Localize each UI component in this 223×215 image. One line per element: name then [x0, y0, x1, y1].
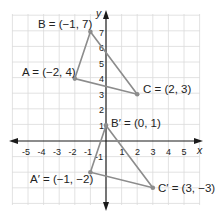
- x-axis-label: x: [196, 144, 203, 156]
- coordinate-plane: y x -5 -4 -3 -2 -1 1 2 3 4 5 1 2 3 4 5 6…: [0, 0, 223, 215]
- y-axis-label: y: [95, 7, 102, 19]
- x-tick: -3: [53, 147, 61, 157]
- x-tick: -1: [84, 147, 92, 157]
- y-tick: 1: [99, 121, 104, 131]
- point-c-prime: [151, 186, 156, 191]
- x-tick: -4: [38, 147, 46, 157]
- y-axis-up-arrow-icon: [103, 10, 109, 19]
- point-b-prime: [104, 123, 109, 128]
- y-axis-down-arrow-icon: [103, 202, 109, 211]
- y-tick: 4: [99, 74, 104, 84]
- x-tick: -5: [22, 147, 30, 157]
- x-tick: 4: [166, 147, 171, 157]
- y-tick: 7: [99, 28, 104, 38]
- label-b-prime: B′ = (0, 1): [111, 117, 161, 129]
- x-tick: 2: [135, 147, 140, 157]
- x-axis-left-arrow-icon: [9, 138, 18, 144]
- label-c: C = (2, 3): [143, 83, 191, 95]
- label-a-prime: A′ = (−1, −2): [30, 173, 93, 185]
- x-tick-labels: -5 -4 -3 -2 -1 1 2 3 4 5: [22, 147, 187, 157]
- y-tick: 3: [99, 90, 104, 100]
- point-b: [88, 30, 93, 35]
- point-c: [135, 92, 140, 97]
- label-b: B = (−1, 7): [38, 18, 93, 30]
- x-tick: -2: [69, 147, 77, 157]
- label-a: A = (−2, 4): [22, 66, 76, 78]
- label-c-prime: C′ = (3, −3): [158, 182, 215, 194]
- x-tick: 3: [151, 147, 156, 157]
- y-tick: 2: [99, 105, 104, 115]
- x-tick: 5: [182, 147, 187, 157]
- y-tick: 5: [99, 59, 104, 69]
